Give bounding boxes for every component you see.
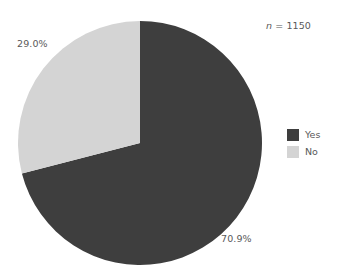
pie-slice-no-percent-label: 29.0% — [17, 38, 48, 49]
legend-swatch-yes-icon — [287, 129, 299, 141]
legend-entry-no: No — [287, 146, 320, 158]
pie-slice-yes-percent-label: 70.9% — [221, 233, 252, 244]
legend-entry-yes: Yes — [287, 129, 320, 141]
pie-chart-figure: 29.0% 70.9% n = 1150 Yes No — [0, 0, 345, 279]
legend-label-no: No — [305, 146, 318, 158]
sample-size-annotation: n = 1150 — [266, 20, 311, 31]
legend-label-yes: Yes — [305, 129, 320, 141]
sample-size-value: = 1150 — [272, 20, 311, 31]
legend-swatch-no-icon — [287, 146, 299, 158]
legend: Yes No — [287, 129, 320, 158]
